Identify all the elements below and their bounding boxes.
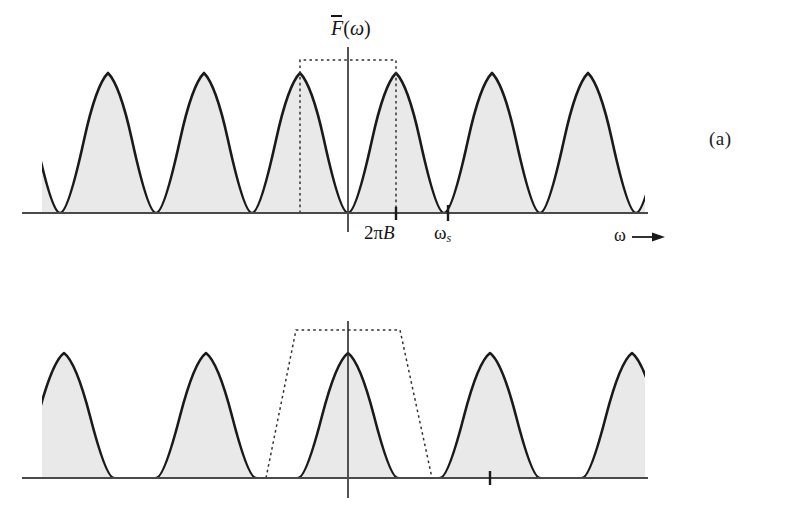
panel-tag-a: (a) bbox=[709, 128, 732, 150]
pi-a: π bbox=[374, 222, 384, 243]
b-a: B bbox=[383, 222, 395, 243]
f-bar-a: F bbox=[331, 17, 343, 40]
spectrum-label-a: F(ω) bbox=[331, 17, 371, 40]
sampled-spectrum-figure: F(ω) 2πB ωs ω (a) bbox=[0, 0, 787, 532]
replica-lobes-b bbox=[0, 353, 682, 478]
replica-lobes-a bbox=[0, 73, 732, 213]
paren-open-a: ( bbox=[343, 17, 350, 39]
two-a: 2 bbox=[364, 222, 374, 243]
paren-close-a: ) bbox=[364, 17, 371, 39]
axis-label-omega-a: ω bbox=[614, 225, 626, 246]
panel-b-plot bbox=[0, 266, 787, 532]
right-arrow-icon bbox=[632, 231, 666, 243]
panel-b: F(ω) 2πB ωs ω (b) bbox=[0, 266, 787, 532]
omega-arg-a: ω bbox=[350, 17, 364, 39]
tick-label-2pib-a: 2πB bbox=[364, 222, 395, 244]
tick-label-omega-s-a: ωs bbox=[434, 222, 451, 246]
subscript-s-a: s bbox=[447, 231, 452, 245]
panel-a: F(ω) 2πB ωs ω (a) bbox=[0, 0, 787, 266]
omega-glyph-a: ω bbox=[434, 222, 447, 243]
